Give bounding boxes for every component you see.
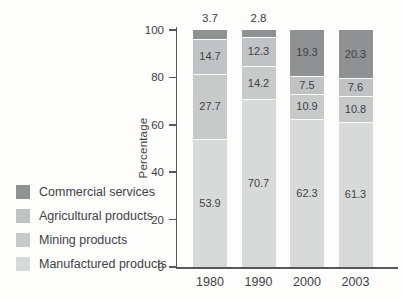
bar-2000: 19.37.510.962.3 bbox=[290, 30, 324, 267]
segment-commercial-services bbox=[193, 30, 227, 39]
value-label-outside: 3.7 bbox=[185, 12, 235, 24]
segment-agricultural-products: 12.3 bbox=[242, 37, 276, 66]
segment-manufactured-products: 62.3 bbox=[290, 119, 324, 267]
y-axis-tick bbox=[169, 219, 177, 221]
x-tick-label: 1990 bbox=[232, 275, 286, 289]
segment-manufactured-products: 61.3 bbox=[339, 122, 373, 267]
legend-swatch bbox=[16, 209, 30, 223]
y-axis-tick bbox=[169, 124, 177, 126]
y-axis-tick bbox=[169, 266, 177, 268]
segment-commercial-services: 20.3 bbox=[339, 30, 373, 78]
y-tick-label: 80 bbox=[131, 70, 164, 84]
y-axis-tick bbox=[169, 29, 177, 31]
segment-mining-products: 10.8 bbox=[339, 96, 373, 122]
segment-manufactured-products: 70.7 bbox=[242, 99, 276, 267]
legend-swatch bbox=[16, 257, 30, 271]
segment-commercial-services bbox=[242, 30, 276, 37]
legend-label: Mining products bbox=[39, 233, 127, 247]
segment-mining-products: 27.7 bbox=[193, 74, 227, 140]
segment-commercial-services: 19.3 bbox=[290, 30, 324, 76]
bar-1980: 14.727.753.9 bbox=[193, 30, 227, 267]
segment-agricultural-products: 7.6 bbox=[339, 78, 373, 96]
y-axis-tick bbox=[169, 77, 177, 79]
y-tick-label: 40 bbox=[131, 165, 164, 179]
y-tick-label: 60 bbox=[131, 118, 164, 132]
legend-item: Commercial services bbox=[16, 185, 167, 199]
y-tick-label: 0 bbox=[131, 260, 164, 274]
segment-agricultural-products: 14.7 bbox=[193, 39, 227, 74]
segment-manufactured-products: 53.9 bbox=[193, 139, 227, 267]
x-tick-label: 1980 bbox=[183, 275, 237, 289]
x-axis-line bbox=[176, 267, 399, 269]
legend-item: Mining products bbox=[16, 233, 167, 247]
x-tick-label: 2003 bbox=[329, 275, 383, 289]
segment-mining-products: 14.2 bbox=[242, 66, 276, 100]
segment-agricultural-products: 7.5 bbox=[290, 76, 324, 94]
bar-1990: 12.314.270.7 bbox=[242, 30, 276, 267]
legend-swatch bbox=[16, 233, 30, 247]
segment-mining-products: 10.9 bbox=[290, 94, 324, 120]
bar-2003: 20.37.610.861.3 bbox=[339, 30, 373, 267]
y-tick-label: 20 bbox=[131, 213, 164, 227]
x-tick-label: 2000 bbox=[280, 275, 334, 289]
legend-swatch bbox=[16, 185, 30, 199]
y-axis-line bbox=[176, 27, 178, 267]
stacked-bar-chart-figure: Commercial servicesAgricultural products… bbox=[0, 0, 402, 299]
legend-label: Commercial services bbox=[39, 185, 155, 199]
value-label-outside: 2.8 bbox=[234, 12, 284, 24]
plot-area: 02040608010014.727.753.93.7198012.314.27… bbox=[177, 30, 395, 267]
y-axis-tick bbox=[169, 171, 177, 173]
y-tick-label: 100 bbox=[131, 23, 164, 37]
